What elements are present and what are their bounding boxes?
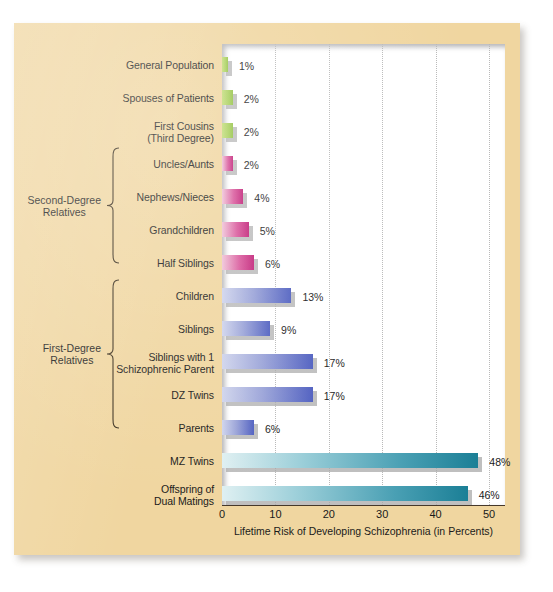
x-tick-label: 20 <box>323 508 335 520</box>
bar-value-label: 2% <box>244 126 259 138</box>
bar-value-label: 17% <box>324 357 345 369</box>
bar: 48% <box>222 453 478 471</box>
bar-fill <box>222 189 243 204</box>
bar-row: Uncles/Aunts2% <box>222 156 505 174</box>
bar-value-label: 13% <box>302 291 323 303</box>
figure-panel: General Population1%Spouses of Patients2… <box>14 23 520 555</box>
bar: 5% <box>222 222 249 240</box>
bar: 46% <box>222 486 468 504</box>
bar-label-line1: Half Siblings <box>157 258 214 270</box>
bar-label: Parents <box>179 423 215 435</box>
bar: 1% <box>222 57 228 75</box>
bar-label: Spouses of Patients <box>123 93 215 105</box>
bar-label-line2: Schizophrenic Parent <box>116 363 214 375</box>
bar-fill <box>222 387 313 402</box>
bar-label: Children <box>176 291 214 303</box>
bar-label-line1: Siblings <box>178 324 214 336</box>
bar-label-line1: Offspring of <box>154 484 214 496</box>
bar-label-line1: General Population <box>126 60 214 72</box>
bar-fill <box>222 156 233 171</box>
bar-label: Siblings with 1Schizophrenic Parent <box>116 352 214 375</box>
bar: 13% <box>222 288 291 306</box>
bar-value-label: 17% <box>324 390 345 402</box>
bar: 17% <box>222 387 313 405</box>
bar-label: First Cousins(Third Degree) <box>147 121 214 144</box>
bar-value-label: 2% <box>244 93 259 105</box>
bar-label-line1: Nephews/Nieces <box>137 192 214 204</box>
bar-fill <box>222 453 478 468</box>
bar-label-line1: DZ Twins <box>171 390 214 402</box>
bar-fill <box>222 420 254 435</box>
x-tick-label: 30 <box>376 508 388 520</box>
x-tick-label: 0 <box>219 508 225 520</box>
bar: 6% <box>222 255 254 273</box>
bar-value-label: 9% <box>281 324 296 336</box>
bar-label: Nephews/Nieces <box>137 192 214 204</box>
bar-row: Nephews/Nieces4% <box>222 189 505 207</box>
bar-rows: General Population1%Spouses of Patients2… <box>222 44 505 505</box>
bar-row: Siblings9% <box>222 321 505 339</box>
x-tick-label: 10 <box>269 508 281 520</box>
bar: 9% <box>222 321 270 339</box>
bar-value-label: 46% <box>479 489 500 501</box>
bar-label: MZ Twins <box>170 456 214 468</box>
bar-row: Children13% <box>222 288 505 306</box>
bar-value-label: 5% <box>260 225 275 237</box>
group-bracket: First-DegreeRelatives <box>106 279 120 429</box>
bar: 2% <box>222 90 233 108</box>
bar-label-line2: (Third Degree) <box>147 132 214 144</box>
bar-label: DZ Twins <box>171 390 214 402</box>
bar-row: Spouses of Patients2% <box>222 90 505 108</box>
bar-value-label: 6% <box>265 258 280 270</box>
bar-row: Siblings with 1Schizophrenic Parent17% <box>222 354 505 372</box>
bar-label-line1: First Cousins <box>147 121 214 133</box>
group-bracket-label: Second-DegreeRelatives <box>27 194 101 218</box>
bar-value-label: 4% <box>254 192 269 204</box>
bar: 4% <box>222 189 243 207</box>
x-tick-label: 50 <box>483 508 495 520</box>
bar-label: Grandchildren <box>149 225 214 237</box>
bar-row: Grandchildren5% <box>222 222 505 240</box>
bar-fill <box>222 486 468 501</box>
plot-area: General Population1%Spouses of Patients2… <box>222 44 505 505</box>
group-bracket: Second-DegreeRelatives <box>106 147 120 264</box>
bar: 2% <box>222 156 233 174</box>
bar-value-label: 6% <box>265 423 280 435</box>
bar-fill <box>222 57 228 72</box>
x-tick-label: 40 <box>429 508 441 520</box>
bar-label-line1: Parents <box>179 423 215 435</box>
bar-fill <box>222 222 249 237</box>
group-label-line2: Relatives <box>27 206 101 218</box>
bar-row: DZ Twins17% <box>222 387 505 405</box>
bar-fill <box>222 288 291 303</box>
group-label-line2: Relatives <box>43 354 101 366</box>
bar-value-label: 2% <box>244 159 259 171</box>
bar-fill <box>222 321 270 336</box>
x-axis: 01020304050 Lifetime Risk of Developing … <box>222 505 505 551</box>
bar-label-line1: Children <box>176 291 214 303</box>
bar: 2% <box>222 123 233 141</box>
bar: 17% <box>222 354 313 372</box>
bar-fill <box>222 255 254 270</box>
bar-fill <box>222 90 233 105</box>
bar-label: Half Siblings <box>157 258 214 270</box>
group-label-line1: Second-Degree <box>27 194 101 206</box>
bar-row: MZ Twins48% <box>222 453 505 471</box>
bar-label-line1: MZ Twins <box>170 456 214 468</box>
bar-row: Parents6% <box>222 420 505 438</box>
bar-label: Siblings <box>178 324 214 336</box>
bar-fill <box>222 123 233 138</box>
bar-label-line1: Spouses of Patients <box>123 93 215 105</box>
bar-label-line1: Uncles/Aunts <box>153 159 214 171</box>
bar-label: Uncles/Aunts <box>153 159 214 171</box>
bar-row: Offspring ofDual Matings46% <box>222 486 505 504</box>
bar-value-label: 48% <box>489 456 510 468</box>
bar-row: First Cousins(Third Degree)2% <box>222 123 505 141</box>
bar-label: Offspring ofDual Matings <box>154 484 214 507</box>
bar-row: Half Siblings6% <box>222 255 505 273</box>
bar-row: General Population1% <box>222 57 505 75</box>
x-axis-title: Lifetime Risk of Developing Schizophreni… <box>234 525 493 537</box>
bar-label-line2: Dual Matings <box>154 495 214 507</box>
group-label-line1: First-Degree <box>43 342 101 354</box>
bar: 6% <box>222 420 254 438</box>
